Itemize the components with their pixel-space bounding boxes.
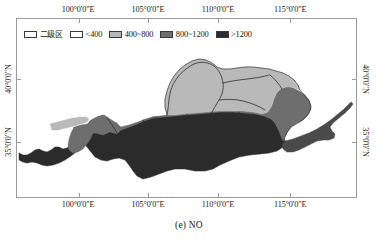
legend-swatch-800-1200: [160, 31, 173, 38]
x-tick-label-bottom-0: 100°0'0"E: [62, 199, 95, 211]
legend-item-800-1200[interactable]: 800~1200: [160, 30, 208, 40]
legend-swatch-lt-400: [70, 31, 83, 38]
x-tick-label-top-1: 105°0'0"E: [132, 4, 165, 16]
legend-label-secondary-zone: 二级区: [40, 30, 64, 40]
y-tick-label-left-1: 35°0'0"N: [4, 127, 13, 157]
x-tick-label-bottom-1: 105°0'0"E: [132, 199, 165, 211]
legend-swatch-secondary-zone: [24, 31, 37, 38]
legend-swatch-gt-1200: [216, 31, 229, 38]
legend-item-400-800[interactable]: 400~800: [109, 30, 153, 40]
y-axis-labels-left: 40°0'0"N 35°0'0"N: [1, 18, 15, 198]
choropleth-map: [17, 19, 357, 198]
y-axis-labels-right: 40°0'0"N 35°0'0"N: [358, 18, 372, 198]
legend-label-800-1200: 800~1200: [176, 30, 209, 40]
map-legend: 二级区 <400 400~800 800~1200 >1200: [22, 27, 258, 42]
legend-label-lt-400: <400: [86, 30, 103, 40]
x-axis-labels-top: 100°0'0"E 105°0'0"E 110°0'0"E 115°0'0"E: [16, 4, 357, 16]
figure-caption: (e) NO: [0, 220, 378, 230]
x-tick-label-bottom-2: 110°0'0"E: [202, 199, 234, 211]
legend-item-secondary-zone[interactable]: 二级区: [24, 30, 63, 40]
y-tick-label-right-0: 40°0'0"N: [361, 64, 370, 94]
y-tick-label-left-0: 40°0'0"N: [4, 64, 13, 94]
legend-item-lt-400[interactable]: <400: [70, 30, 102, 40]
map-plot-area: 二级区 <400 400~800 800~1200 >1200: [16, 18, 357, 198]
legend-label-gt-1200: >1200: [231, 30, 252, 40]
legend-swatch-400-800: [109, 31, 122, 38]
legend-item-gt-1200[interactable]: >1200: [216, 30, 252, 40]
x-tick-label-top-0: 100°0'0"E: [62, 4, 95, 16]
y-tick-label-right-1: 35°0'0"N: [361, 127, 370, 157]
x-tick-label-top-3: 115°0'0"E: [274, 4, 306, 16]
x-tick-label-bottom-3: 115°0'0"E: [274, 199, 306, 211]
x-axis-labels-bottom: 100°0'0"E 105°0'0"E 110°0'0"E 115°0'0"E: [16, 199, 357, 211]
legend-label-400-800: 400~800: [125, 30, 154, 40]
x-tick-label-top-2: 110°0'0"E: [202, 4, 234, 16]
figure-panel: 100°0'0"E 105°0'0"E 110°0'0"E 115°0'0"E …: [0, 0, 378, 242]
